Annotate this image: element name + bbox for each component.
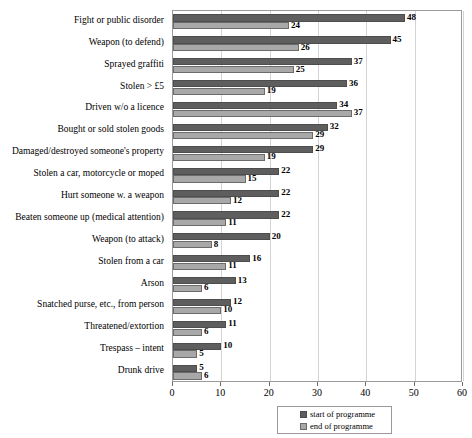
bar-end-of-programme xyxy=(173,88,265,95)
x-axis: 0102030405060 xyxy=(172,382,462,406)
bar-value-start: 13 xyxy=(238,276,247,285)
x-tick-mark xyxy=(172,382,173,386)
bar-start-of-programme xyxy=(173,80,347,87)
bar-start-of-programme xyxy=(173,321,226,328)
category-label: Snatched purse, etc., from person xyxy=(0,300,164,310)
bar-value-end: 6 xyxy=(204,371,209,380)
bar-end-of-programme xyxy=(173,263,226,270)
bar-value-start: 48 xyxy=(407,13,416,22)
bar-start-of-programme xyxy=(173,190,279,197)
category-label: Arson xyxy=(0,279,164,289)
plot-area: 4824452637253619343732292919221522122211… xyxy=(172,10,462,382)
legend-label-end: end of programme xyxy=(310,422,373,431)
bar-value-end: 10 xyxy=(223,305,232,314)
category-label: Hurt someone w. a weapon xyxy=(0,191,164,201)
bar-end-of-programme xyxy=(173,372,202,379)
x-tick-label: 20 xyxy=(264,388,274,398)
bar-end-of-programme xyxy=(173,241,212,248)
bar-value-start: 11 xyxy=(228,319,237,328)
bar-value-end: 8 xyxy=(214,240,219,249)
bar-value-end: 19 xyxy=(267,86,276,95)
bar-end-of-programme xyxy=(173,154,265,161)
x-tick-mark xyxy=(269,382,270,386)
gridline xyxy=(415,11,416,381)
gridline xyxy=(318,11,319,381)
chart-legend: start of programme end of programme xyxy=(277,406,392,434)
x-tick-mark xyxy=(317,382,318,386)
category-label: Bought or sold stolen goods xyxy=(0,125,164,135)
bar-start-of-programme xyxy=(173,102,337,109)
bar-end-of-programme xyxy=(173,307,221,314)
bar-start-of-programme xyxy=(173,14,405,21)
category-label: Damaged/destroyed someone's property xyxy=(0,147,164,157)
category-label: Weapon (to attack) xyxy=(0,235,164,245)
legend-item-end: end of programme xyxy=(300,421,391,432)
bar-start-of-programme xyxy=(173,233,270,240)
x-tick-mark xyxy=(414,382,415,386)
x-tick-label: 50 xyxy=(409,388,419,398)
bar-end-of-programme xyxy=(173,329,202,336)
category-label: Beaten someone up (medical attention) xyxy=(0,213,164,223)
category-label: Stolen a car, motorcycle or moped xyxy=(0,169,164,179)
bar-value-start: 22 xyxy=(281,166,290,175)
bar-value-start: 36 xyxy=(349,79,358,88)
bar-value-start: 29 xyxy=(315,144,324,153)
bar-value-end: 26 xyxy=(301,43,310,52)
bar-start-of-programme xyxy=(173,365,197,372)
bar-value-start: 22 xyxy=(281,210,290,219)
bar-value-end: 37 xyxy=(354,108,363,117)
category-label: Stolen > £5 xyxy=(0,82,164,92)
x-tick-label: 10 xyxy=(215,388,225,398)
bar-end-of-programme xyxy=(173,219,226,226)
bar-start-of-programme xyxy=(173,58,352,65)
bar-start-of-programme xyxy=(173,299,231,306)
bar-value-end: 19 xyxy=(267,152,276,161)
bar-chart: Fight or public disorderWeapon (to defen… xyxy=(0,0,472,438)
x-tick-label: 0 xyxy=(170,388,175,398)
bar-start-of-programme xyxy=(173,36,391,43)
bar-value-end: 25 xyxy=(296,65,305,74)
gridline xyxy=(463,11,464,381)
bar-end-of-programme xyxy=(173,66,294,73)
bar-value-end: 11 xyxy=(228,218,237,227)
bar-value-start: 45 xyxy=(393,35,402,44)
bar-start-of-programme xyxy=(173,255,250,262)
category-label: Fight or public disorder xyxy=(0,16,164,26)
legend-item-start: start of programme xyxy=(300,409,391,420)
bar-value-start: 5 xyxy=(199,363,204,372)
bar-value-start: 20 xyxy=(272,232,281,241)
bar-value-end: 24 xyxy=(291,21,300,30)
bar-value-start: 10 xyxy=(223,341,232,350)
x-tick-mark xyxy=(462,382,463,386)
x-tick-label: 60 xyxy=(457,388,467,398)
bar-value-end: 6 xyxy=(204,327,209,336)
bar-value-start: 37 xyxy=(354,57,363,66)
category-label: Sprayed graffiti xyxy=(0,60,164,70)
bar-end-of-programme xyxy=(173,22,289,29)
x-tick-label: 40 xyxy=(360,388,370,398)
category-label: Threatened/extortion xyxy=(0,322,164,332)
bar-value-start: 32 xyxy=(330,122,339,131)
category-label: Driven w/o a licence xyxy=(0,103,164,113)
bar-end-of-programme xyxy=(173,197,231,204)
bar-value-start: 22 xyxy=(281,188,290,197)
bar-value-end: 5 xyxy=(199,349,204,358)
bar-value-end: 6 xyxy=(204,283,209,292)
bar-end-of-programme xyxy=(173,44,299,51)
category-label: Trespass – intent xyxy=(0,344,164,354)
bar-end-of-programme xyxy=(173,350,197,357)
bar-value-end: 29 xyxy=(315,130,324,139)
bar-value-start: 16 xyxy=(252,254,261,263)
x-tick-mark xyxy=(365,382,366,386)
bar-end-of-programme xyxy=(173,110,352,117)
legend-swatch-start-icon xyxy=(300,411,307,418)
bar-start-of-programme xyxy=(173,124,328,131)
bar-value-end: 11 xyxy=(228,261,237,270)
bar-end-of-programme xyxy=(173,285,202,292)
bar-end-of-programme xyxy=(173,132,313,139)
bar-end-of-programme xyxy=(173,175,246,182)
x-tick-mark xyxy=(220,382,221,386)
bar-start-of-programme xyxy=(173,343,221,350)
legend-swatch-end-icon xyxy=(300,423,307,430)
bar-value-end: 15 xyxy=(248,174,257,183)
